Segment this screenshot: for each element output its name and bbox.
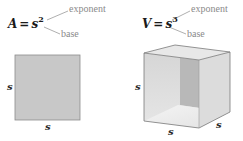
- square-side-label-bottom: s: [45, 121, 51, 132]
- diagram-stage: A=s2 exponent base V=s3 exponent base s …: [0, 0, 243, 141]
- square-shape: [15, 55, 80, 120]
- volume-formula: V=s3: [142, 15, 178, 31]
- volume-exponent: 3: [172, 14, 178, 24]
- base-leader-line-area: [44, 27, 60, 34]
- volume-base-label: base: [187, 28, 205, 39]
- exponent-leader-line-area: [47, 11, 68, 20]
- volume-exponent-label: exponent: [191, 3, 228, 14]
- area-base-label: base: [61, 28, 79, 39]
- area-equals: =: [19, 17, 29, 31]
- area-exponent: 2: [38, 14, 44, 24]
- cube-side-label-depth: s: [216, 119, 222, 130]
- area-exponent-label: exponent: [69, 3, 106, 14]
- area-variable: A: [8, 17, 17, 31]
- square-side-label-left: s: [7, 81, 13, 92]
- area-formula: A=s2: [8, 15, 44, 31]
- cube-right-face: [199, 52, 230, 128]
- volume-equals: =: [153, 17, 163, 31]
- cube-side-label-left: s: [135, 81, 141, 92]
- volume-variable: V: [142, 17, 151, 31]
- cube-back-wall: [180, 58, 199, 108]
- cube-side-label-bottom: s: [168, 126, 174, 137]
